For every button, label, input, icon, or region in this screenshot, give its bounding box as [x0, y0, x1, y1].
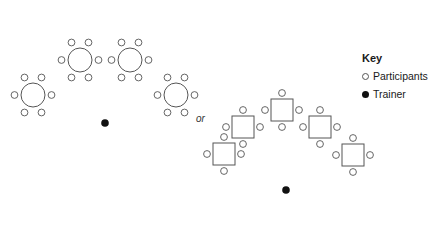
participant-seat: [334, 124, 341, 131]
participant-seat: [85, 74, 92, 81]
round-table: [164, 83, 188, 107]
or-label: or: [196, 113, 205, 124]
participant-seat: [204, 151, 211, 158]
participant-seat: [221, 134, 228, 141]
participant-seat: [240, 141, 247, 148]
participant-seat: [350, 169, 357, 176]
participant-seat: [135, 74, 142, 81]
participant-seat: [350, 135, 357, 142]
square-table: [342, 144, 364, 166]
participant-seat: [221, 168, 228, 175]
legend: Key Participants Trainer: [362, 52, 428, 103]
participant-seat: [164, 74, 171, 81]
participant-seat: [296, 107, 303, 114]
participant-seat: [238, 151, 245, 158]
participant-seat: [58, 57, 65, 64]
legend-title: Key: [362, 52, 428, 64]
participant-seat: [21, 109, 28, 116]
participant-seat: [145, 57, 152, 64]
participant-seat: [279, 90, 286, 97]
trainer-position: [101, 119, 109, 127]
trainer-position: [282, 186, 290, 194]
participant-seat: [48, 92, 55, 99]
round-table: [118, 48, 142, 72]
participant-seat: [68, 39, 75, 46]
square-table: [271, 99, 293, 121]
participant-seat: [181, 109, 188, 116]
participant-seat: [317, 141, 324, 148]
participant-seat: [181, 74, 188, 81]
participant-seat: [95, 57, 102, 64]
participant-seat: [11, 92, 18, 99]
participant-seat: [108, 57, 115, 64]
participant-seat: [333, 152, 340, 159]
participant-seat: [367, 152, 374, 159]
round-table: [21, 83, 45, 107]
participant-seat: [317, 107, 324, 114]
participant-seat: [164, 109, 171, 116]
legend-item-trainer: Trainer: [362, 85, 428, 103]
participant-seat: [262, 107, 269, 114]
participant-seat: [21, 74, 28, 81]
participant-seat: [118, 39, 125, 46]
participant-seat: [38, 109, 45, 116]
participant-seat: [257, 124, 264, 131]
legend-item-participants: Participants: [362, 67, 428, 85]
participant-seat: [191, 92, 198, 99]
participant-seat: [38, 74, 45, 81]
square-table: [213, 143, 235, 165]
open-circle-icon: [362, 73, 369, 80]
participant-seat: [68, 74, 75, 81]
filled-circle-icon: [362, 91, 369, 98]
participant-seat: [279, 124, 286, 131]
participant-seat: [240, 107, 247, 114]
participant-seat: [118, 74, 125, 81]
participant-seat: [135, 39, 142, 46]
legend-label: Trainer: [373, 88, 406, 100]
round-table: [68, 48, 92, 72]
legend-label: Participants: [373, 70, 428, 82]
square-table: [232, 116, 254, 138]
participant-seat: [154, 92, 161, 99]
participant-seat: [223, 124, 230, 131]
participant-seat: [300, 124, 307, 131]
square-table: [309, 116, 331, 138]
participant-seat: [85, 39, 92, 46]
